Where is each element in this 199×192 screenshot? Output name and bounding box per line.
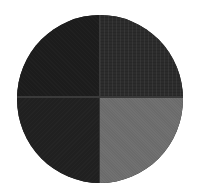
quadrant-bottom-right — [100, 98, 183, 183]
quadrant-disc — [17, 15, 183, 183]
quadrant-top-left — [17, 15, 99, 96]
quadrant-bottom-left — [17, 98, 99, 183]
quadrant-top-right — [100, 15, 183, 96]
vertical-divider — [99, 15, 100, 183]
horizontal-divider — [17, 96, 183, 98]
